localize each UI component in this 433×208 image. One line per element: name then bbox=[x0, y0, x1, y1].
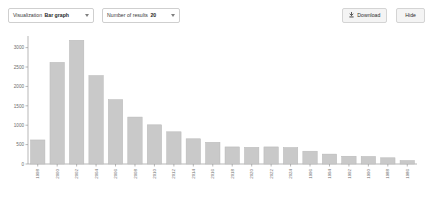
download-button[interactable]: Download bbox=[342, 8, 387, 23]
bar-chart: 0500100015002000250030001998200020022004… bbox=[0, 30, 433, 208]
x-axis-tick-label: 2002 bbox=[74, 168, 79, 178]
x-axis-tick-label: 2024 bbox=[288, 168, 293, 178]
bar[interactable] bbox=[303, 151, 317, 164]
x-axis-tick-label: 1990 bbox=[366, 168, 371, 178]
y-axis-tick-label: 1500 bbox=[14, 104, 25, 109]
x-axis-tick-label: 2020 bbox=[249, 168, 254, 178]
toolbar-actions: Download Hide bbox=[342, 8, 425, 23]
bar[interactable] bbox=[206, 142, 220, 164]
x-axis-tick-label: 2004 bbox=[94, 168, 99, 178]
hide-button-label: Hide bbox=[405, 12, 416, 18]
visualization-panel: Visualization Bar graph Number of result… bbox=[0, 0, 433, 208]
visualization-type-select[interactable]: Visualization Bar graph bbox=[8, 8, 94, 23]
bar[interactable] bbox=[264, 147, 278, 164]
results-select-label: Number of results bbox=[107, 12, 148, 18]
x-axis-tick-label: 1998 bbox=[35, 168, 40, 178]
x-axis-tick-label: 2018 bbox=[230, 168, 235, 178]
bar[interactable] bbox=[128, 117, 142, 164]
bar[interactable] bbox=[147, 125, 161, 164]
chart-toolbar: Visualization Bar graph Number of result… bbox=[0, 0, 433, 30]
bar[interactable] bbox=[381, 158, 395, 164]
x-axis-tick-label: 1992 bbox=[347, 168, 352, 178]
x-axis-tick-label: 2000 bbox=[55, 168, 60, 178]
bar[interactable] bbox=[167, 132, 181, 164]
download-icon bbox=[349, 12, 354, 18]
bar[interactable] bbox=[69, 40, 83, 164]
bar[interactable] bbox=[186, 139, 200, 164]
chevron-down-icon bbox=[85, 14, 89, 17]
bar[interactable] bbox=[108, 100, 122, 164]
x-axis-tick-label: 2006 bbox=[113, 168, 118, 178]
x-axis-tick-label: 1994 bbox=[327, 168, 332, 178]
bar[interactable] bbox=[361, 156, 375, 164]
download-button-label: Download bbox=[357, 12, 380, 18]
number-of-results-select[interactable]: Number of results 20 bbox=[102, 8, 180, 23]
bar[interactable] bbox=[342, 156, 356, 164]
x-axis-tick-label: 1996 bbox=[308, 168, 313, 178]
y-axis-tick-label: 2000 bbox=[14, 84, 25, 89]
bar[interactable] bbox=[283, 148, 297, 164]
x-axis-tick-label: 2008 bbox=[133, 168, 138, 178]
bar-chart-svg: 0500100015002000250030001998200020022004… bbox=[0, 30, 433, 208]
hide-button[interactable]: Hide bbox=[396, 8, 425, 23]
x-axis-tick-label: 2016 bbox=[210, 168, 215, 178]
x-axis-tick-label: 1988 bbox=[385, 168, 390, 178]
visualization-select-label: Visualization bbox=[13, 12, 42, 18]
x-axis-tick-label: 1986 bbox=[405, 168, 410, 178]
y-axis-tick-label: 1000 bbox=[14, 123, 25, 128]
y-axis-tick-label: 500 bbox=[16, 142, 24, 147]
bar[interactable] bbox=[322, 154, 336, 164]
bar[interactable] bbox=[89, 76, 103, 164]
bar[interactable] bbox=[31, 140, 45, 164]
bar[interactable] bbox=[400, 161, 414, 164]
chevron-down-icon bbox=[171, 14, 175, 17]
x-axis-tick-label: 2014 bbox=[191, 168, 196, 178]
visualization-select-value: Bar graph bbox=[45, 12, 70, 18]
x-axis-tick-label: 2010 bbox=[152, 168, 157, 178]
y-axis-tick-label: 0 bbox=[21, 162, 24, 167]
x-axis-tick-label: 2022 bbox=[269, 168, 274, 178]
results-select-value: 20 bbox=[150, 12, 156, 18]
x-axis-tick-label: 2012 bbox=[171, 168, 176, 178]
y-axis-tick-label: 3000 bbox=[14, 45, 25, 50]
bar[interactable] bbox=[50, 62, 64, 164]
bar[interactable] bbox=[244, 147, 258, 164]
y-axis-tick-label: 2500 bbox=[14, 65, 25, 70]
bar[interactable] bbox=[225, 147, 239, 164]
